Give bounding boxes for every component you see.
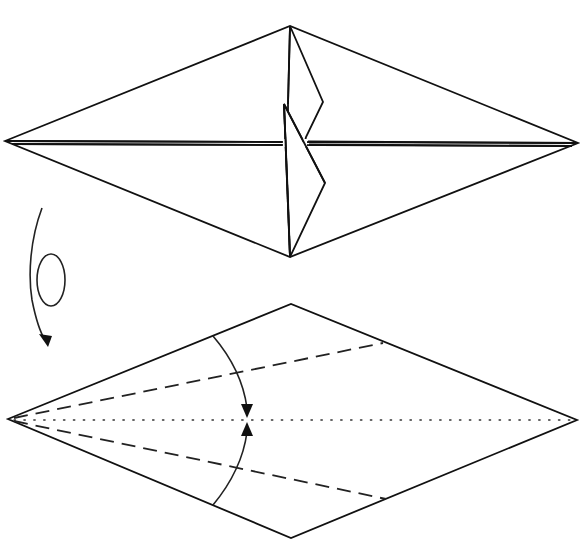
center-line-lower-left bbox=[12, 144, 282, 145]
origami-diagram bbox=[0, 0, 585, 546]
diagram-svg bbox=[0, 0, 585, 546]
center-line-upper-left bbox=[5, 141, 282, 142]
turn-over-arrow-icon bbox=[30, 208, 65, 347]
bottom-diamond-outline bbox=[8, 304, 577, 538]
step-top-model bbox=[5, 26, 578, 257]
step-bottom-model bbox=[8, 304, 577, 538]
